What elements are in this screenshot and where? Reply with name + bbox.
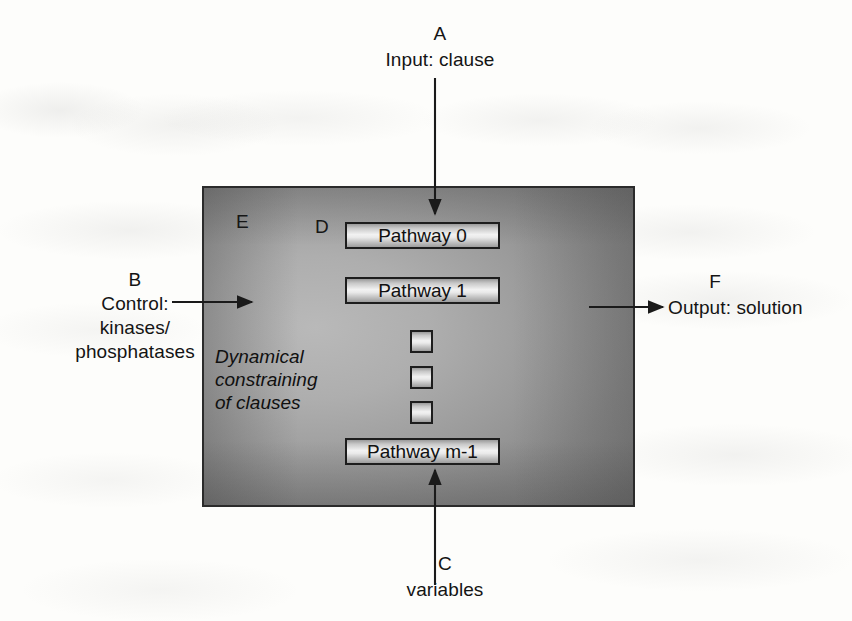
annotation-f-tag: F: [620, 270, 810, 294]
annotation-a-tag: A: [380, 22, 500, 46]
annotation-c-text: variables: [375, 578, 515, 602]
pathway-ellipsis-box-3: [410, 401, 433, 424]
annotation-b-line1: Control:: [60, 292, 210, 316]
pathway-box-0[interactable]: Pathway 0: [345, 222, 500, 249]
annotation-a-text: Input: clause: [340, 48, 540, 72]
note-line-2: constraining: [215, 368, 317, 391]
pathway-box-m-1[interactable]: Pathway m-1: [345, 438, 500, 465]
pathway-ellipsis-box-1: [410, 330, 433, 353]
annotation-d-tag: D: [315, 216, 329, 238]
annotation-b-line2: kinases/: [60, 316, 210, 340]
annotation-f-text: Output: solution: [668, 296, 803, 320]
pathway-box-1[interactable]: Pathway 1: [345, 277, 500, 304]
annotation-c-tag: C: [390, 552, 500, 576]
annotation-b-tag: B: [60, 268, 210, 292]
note-line-3: of clauses: [215, 391, 317, 414]
dynamical-constraining-note: Dynamical constraining of clauses: [215, 345, 317, 414]
pathway-ellipsis-box-2: [410, 366, 433, 389]
note-line-1: Dynamical: [215, 345, 317, 368]
annotation-e-tag: E: [236, 211, 249, 233]
